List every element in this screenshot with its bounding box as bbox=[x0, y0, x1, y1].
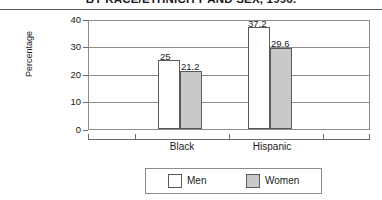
title-divider bbox=[0, 9, 382, 10]
plot-area: 25 21.2 37.2 29.6 bbox=[88, 20, 370, 130]
bar-value-hispanic-women: 29.6 bbox=[271, 39, 290, 49]
x-tick-mark-1 bbox=[135, 134, 136, 140]
x-tick-mark-4 bbox=[369, 134, 370, 140]
legend-entry-women: Women bbox=[246, 174, 299, 188]
bar-value-hispanic-men: 37.2 bbox=[248, 19, 267, 29]
bar-value-black-men: 25 bbox=[160, 52, 171, 62]
chart-figure: BY RACE/ETHNICITY AND SEX, 1996. Percent… bbox=[0, 0, 382, 200]
x-tick-mark-0 bbox=[88, 134, 89, 140]
bar-hispanic-men bbox=[248, 27, 270, 129]
x-category-label-black: Black bbox=[142, 141, 222, 153]
legend-label-women: Women bbox=[265, 175, 299, 187]
bar-black-men bbox=[158, 60, 180, 129]
legend-swatch-men-icon bbox=[168, 174, 182, 188]
chart-title: BY RACE/ETHNICITY AND SEX, 1996. bbox=[0, 0, 382, 6]
y-tick-label-0: 0 bbox=[39, 125, 81, 135]
y-tick-label-10: 10 bbox=[39, 97, 81, 107]
legend-label-men: Men bbox=[187, 175, 206, 187]
chart-legend: Men Women bbox=[145, 168, 322, 194]
gridline-10 bbox=[89, 102, 369, 103]
gridline-20 bbox=[89, 75, 369, 76]
bar-hispanic-women bbox=[270, 48, 292, 129]
x-category-label-hispanic: Hispanic bbox=[232, 141, 312, 153]
y-axis-title: Percentage bbox=[24, 0, 34, 109]
bar-value-black-women: 21.2 bbox=[181, 62, 200, 72]
y-tick-label-20: 20 bbox=[39, 70, 81, 80]
legend-swatch-women-icon bbox=[246, 174, 260, 188]
gridline-30 bbox=[89, 47, 369, 48]
y-tick-label-30: 30 bbox=[39, 42, 81, 52]
y-tick-label-40: 40 bbox=[39, 15, 81, 25]
x-tick-mark-2 bbox=[229, 134, 230, 140]
y-tick-mark-0 bbox=[83, 130, 88, 131]
bar-black-women bbox=[180, 71, 202, 129]
legend-entry-men: Men bbox=[168, 174, 206, 188]
x-tick-mark-3 bbox=[323, 134, 324, 140]
